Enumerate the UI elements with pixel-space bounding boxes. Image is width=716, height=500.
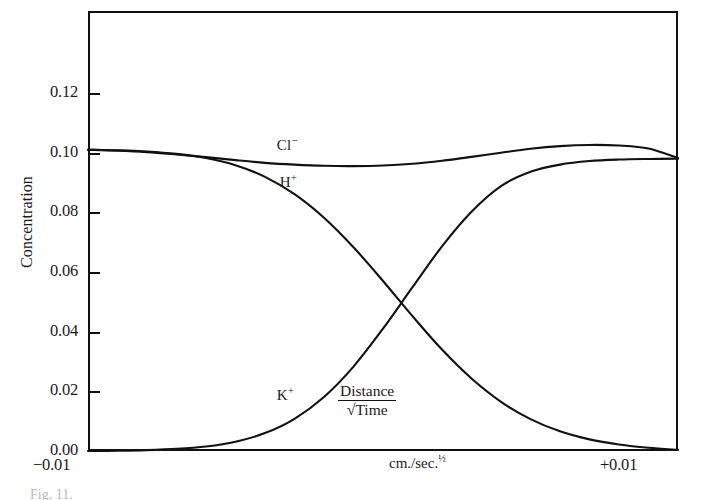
- series-label-potassium-charge: +: [288, 384, 294, 396]
- series-label-hydrogen-symbol: H: [280, 174, 291, 190]
- ratio-denominator-text: Time: [355, 401, 387, 418]
- series-label-potassium: K+: [277, 387, 294, 404]
- x-axis-unit-text: cm./sec.: [389, 455, 438, 471]
- series-label-chloride-charge: −: [291, 134, 297, 146]
- series-label-hydrogen-charge: +: [291, 171, 297, 183]
- series-label-potassium-symbol: K: [277, 387, 288, 403]
- x-axis-label-left: −0.01: [33, 455, 70, 475]
- figure-container: Concentration 0.000.020.040.060.080.100.…: [0, 0, 716, 500]
- ratio-denominator: √Time: [338, 401, 396, 419]
- series-path-chloride: [88, 145, 678, 166]
- series-label-hydrogen: H+: [280, 174, 297, 191]
- distance-over-sqrt-time-annotation: Distance √Time: [338, 383, 396, 419]
- ratio-numerator: Distance: [338, 383, 396, 401]
- figure-caption: Fig. 11.: [30, 487, 73, 500]
- series-label-chloride: Cl−: [277, 137, 298, 154]
- x-axis-unit-label: cm./sec.½: [389, 455, 446, 472]
- series-label-chloride-symbol: Cl: [277, 137, 292, 153]
- x-axis-label-right: +0.01: [600, 455, 637, 475]
- x-axis-unit-exponent: ½: [438, 453, 446, 464]
